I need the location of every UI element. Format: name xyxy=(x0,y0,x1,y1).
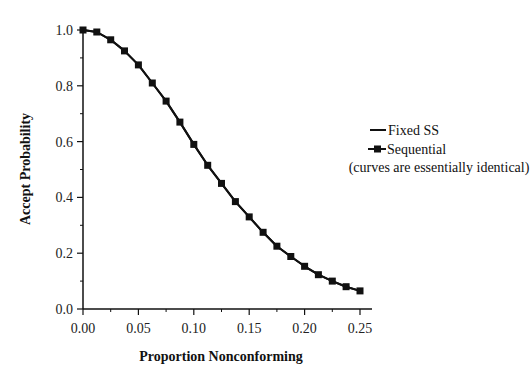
legend: Fixed SS Sequential (curves are essentia… xyxy=(349,123,530,176)
x-tick-label: 0.10 xyxy=(182,321,207,336)
legend-note: (curves are essentially identical) xyxy=(349,160,530,176)
data-point-square-icon xyxy=(287,253,294,260)
data-point-square-icon xyxy=(260,229,267,236)
data-point-square-icon xyxy=(301,263,308,270)
curves xyxy=(80,27,364,295)
x-axis-title: Proportion Nonconforming xyxy=(139,349,302,364)
chart: 0.000.050.100.150.200.250.00.20.40.60.81… xyxy=(0,0,531,376)
data-point-square-icon xyxy=(357,287,364,294)
x-tick-label: 0.25 xyxy=(348,321,373,336)
tick-labels: 0.000.050.100.150.200.250.00.20.40.60.81… xyxy=(56,23,373,336)
y-tick-label: 0.0 xyxy=(56,302,74,317)
y-tick-label: 0.4 xyxy=(56,190,74,205)
data-point-square-icon xyxy=(135,61,142,68)
x-tick-label: 0.00 xyxy=(71,321,96,336)
x-tick-label: 0.05 xyxy=(126,321,151,336)
data-point-square-icon xyxy=(329,278,336,285)
data-point-square-icon xyxy=(273,243,280,250)
y-axis-title: Accept Probability xyxy=(18,113,33,225)
data-point-square-icon xyxy=(218,180,225,187)
x-tick-label: 0.15 xyxy=(237,321,262,336)
legend-label-sequential: Sequential xyxy=(387,142,446,157)
data-point-square-icon xyxy=(163,98,170,105)
y-tick-label: 0.8 xyxy=(56,79,74,94)
y-tick-label: 1.0 xyxy=(56,23,74,38)
legend-sequential-square-icon xyxy=(374,146,381,153)
x-tick-label: 0.20 xyxy=(292,321,317,336)
series-line-sequential xyxy=(83,30,360,291)
data-point-square-icon xyxy=(315,271,322,278)
axes xyxy=(77,28,372,315)
data-point-square-icon xyxy=(176,119,183,126)
data-point-square-icon xyxy=(343,283,350,290)
data-point-square-icon xyxy=(149,80,156,87)
data-point-square-icon xyxy=(121,47,128,54)
data-point-square-icon xyxy=(80,27,87,34)
y-tick-label: 0.2 xyxy=(56,246,74,261)
legend-label-fixed-ss: Fixed SS xyxy=(388,123,439,138)
data-point-square-icon xyxy=(190,141,197,148)
y-tick-label: 0.6 xyxy=(56,135,74,150)
data-point-square-icon xyxy=(232,198,239,205)
data-point-square-icon xyxy=(93,29,100,36)
data-point-square-icon xyxy=(246,213,253,220)
data-point-square-icon xyxy=(204,162,211,169)
series-line-fixed-ss xyxy=(83,30,360,291)
data-point-square-icon xyxy=(107,36,114,43)
